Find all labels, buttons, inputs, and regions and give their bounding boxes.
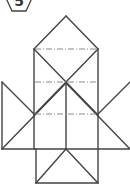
solid-lines xyxy=(2,16,130,183)
solid-edge xyxy=(66,16,98,49)
diagram-canvas: 5 xyxy=(0,0,130,190)
badge-number: 5 xyxy=(14,0,24,9)
solid-edge xyxy=(66,149,98,183)
solid-edge xyxy=(36,149,66,183)
solid-edge xyxy=(98,82,130,114)
badge: 5 xyxy=(6,0,32,11)
folding-diagram: 5 xyxy=(0,0,130,190)
solid-edge xyxy=(34,16,66,49)
solid-edge xyxy=(2,82,34,114)
